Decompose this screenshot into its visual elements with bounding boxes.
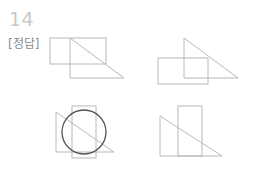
figure-bottom-left [48,104,124,164]
figure-bottom-right [152,104,232,164]
diagram-page: 14 [정답] [0,0,258,179]
rectangle-shape [72,106,96,158]
rectangle-shape [178,106,202,156]
page-title: 14 [9,10,34,29]
circle-shape [62,110,106,154]
triangle-shape [70,38,124,78]
rectangle-shape [50,38,106,64]
triangle-shape [160,116,222,156]
answer-label: [정답] [8,38,39,51]
figure-top-right [152,32,246,90]
figure-top-left [48,32,134,88]
rectangle-shape [158,58,208,84]
triangle-shape [56,112,114,152]
